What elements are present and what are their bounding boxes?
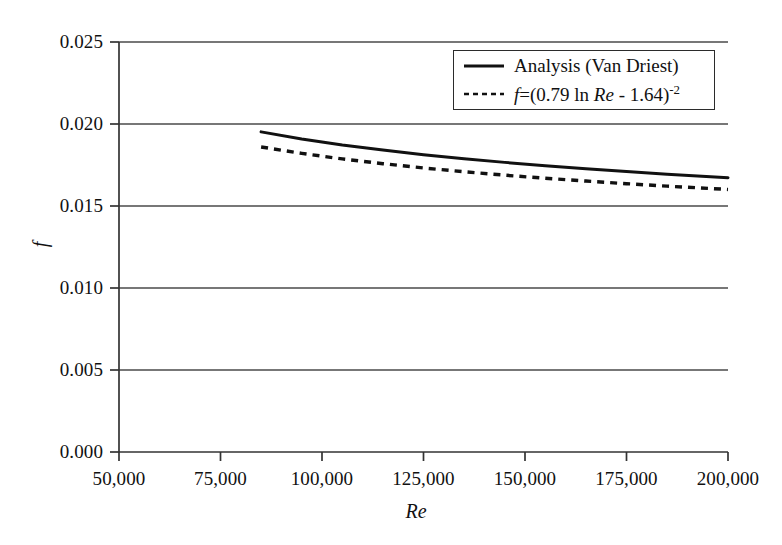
x-tick-label: 200,000 xyxy=(697,468,759,490)
y-axis-title: f xyxy=(29,242,52,248)
x-tick-label: 100,000 xyxy=(291,468,353,490)
legend: Analysis (Van Driest) f=(0.79 ln Re - 1.… xyxy=(453,50,715,110)
y-tick-label: 0.000 xyxy=(0,441,103,463)
legend-item-analysis: Analysis (Van Driest) xyxy=(462,52,679,80)
data-series xyxy=(261,132,728,190)
legend-solid-line-swatch xyxy=(462,59,506,73)
legend-dashed-line-swatch xyxy=(462,87,506,101)
y-tick-label: 0.020 xyxy=(0,113,103,135)
legend-formula-eq: = xyxy=(519,84,530,105)
legend-item-correlation: f=(0.79 ln Re - 1.64)-2 xyxy=(462,80,680,108)
x-tick-label: 175,000 xyxy=(595,468,657,490)
legend-formula-open: (0.79 ln xyxy=(530,84,589,105)
legend-label-analysis: Analysis (Van Driest) xyxy=(514,55,679,77)
y-tick-label: 0.010 xyxy=(0,277,103,299)
x-tick-label: 125,000 xyxy=(392,468,454,490)
legend-formula-close: - 1.64) xyxy=(619,84,670,105)
legend-formula-re: Re xyxy=(594,84,614,105)
x-tick-label: 50,000 xyxy=(93,468,146,490)
legend-label-correlation: f=(0.79 ln Re - 1.64)-2 xyxy=(514,82,680,106)
legend-formula-exponent: -2 xyxy=(669,82,680,97)
x-axis-title: Re xyxy=(406,500,427,523)
chart-figure: 0.0000.0050.0100.0150.0200.025 50,00075,… xyxy=(0,0,782,545)
y-tick-label: 0.015 xyxy=(0,195,103,217)
x-tick-label: 150,000 xyxy=(494,468,556,490)
series-line-1 xyxy=(261,147,728,189)
series-line-0 xyxy=(261,132,728,178)
y-tick-label: 0.025 xyxy=(0,31,103,53)
x-tick-label: 75,000 xyxy=(194,468,247,490)
y-tick-label: 0.005 xyxy=(0,359,103,381)
